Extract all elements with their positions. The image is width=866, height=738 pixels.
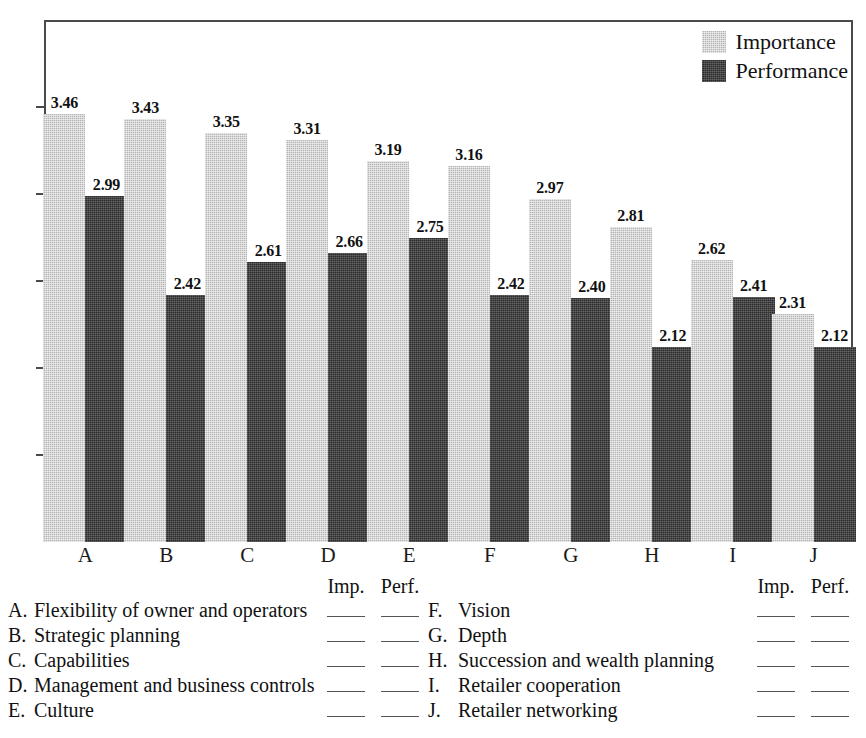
key-letter: H. (428, 650, 458, 670)
key-text: Flexibility of owner and operators (34, 600, 320, 620)
bar-group-j: 2.312.12 (772, 20, 856, 542)
bar-g-perf: 2.40 (571, 298, 613, 542)
key-letter: D. (8, 675, 34, 695)
bar-value-label: 3.31 (294, 121, 321, 137)
x-axis: ABCDEFGHIJ (44, 545, 853, 579)
key-blank-performance (802, 641, 858, 644)
key-blank-performance (802, 616, 858, 619)
key-blank-performance (372, 716, 428, 719)
key-row: J. Retailer networking (428, 700, 858, 725)
key-header-importance: Imp. (750, 576, 802, 596)
key-text: Retailer cooperation (458, 675, 750, 695)
bar-value-label: 2.61 (255, 243, 282, 259)
key-header-importance: Imp. (320, 576, 372, 596)
bar-value-label: 3.19 (374, 142, 401, 158)
bar-value-label: 3.43 (132, 100, 159, 116)
key-letter: B. (8, 625, 34, 645)
bar-f-perf: 2.42 (490, 295, 532, 542)
x-tick-label-f: F (484, 545, 496, 566)
bar-group-a: 3.462.99 (43, 20, 127, 542)
bar-group-h: 2.812.12 (610, 20, 694, 542)
bar-value-label: 3.46 (51, 95, 78, 111)
bar-value-label: 2.66 (336, 234, 363, 250)
key-blank-performance (802, 691, 858, 694)
bar-value-label: 2.75 (416, 219, 443, 235)
bar-e-perf: 2.75 (409, 238, 451, 543)
key-text: Culture (34, 700, 320, 720)
x-tick-label-d: D (321, 545, 336, 566)
legend-item-importance: Importance (702, 30, 848, 53)
bar-value-label: 3.16 (455, 147, 482, 163)
key-column-left: Imp. Perf. A. Flexibility of owner and o… (8, 576, 428, 725)
key-row: E. Culture (8, 700, 428, 725)
bar-c-perf: 2.61 (247, 262, 289, 542)
bar-g-imp: 2.97 (529, 199, 571, 542)
key-row: F. Vision (428, 600, 858, 625)
key-blank-importance (320, 641, 372, 644)
key-blank-performance (372, 691, 428, 694)
x-tick-label-g: G (563, 545, 578, 566)
key-row: B. Strategic planning (8, 625, 428, 650)
bar-value-label: 2.62 (698, 241, 725, 257)
bar-value-label: 2.40 (578, 279, 605, 295)
key-text: Management and business controls (34, 675, 320, 695)
bar-group-d: 3.312.66 (286, 20, 370, 542)
key-letter: J. (428, 700, 458, 720)
key-row: A. Flexibility of owner and operators (8, 600, 428, 625)
key-text: Capabilities (34, 650, 320, 670)
performance-swatch-icon (702, 60, 726, 82)
bar-value-label: 2.42 (497, 276, 524, 292)
legend-item-performance: Performance (702, 59, 848, 82)
bar-j-imp: 2.31 (772, 314, 814, 542)
bar-d-perf: 2.66 (328, 253, 370, 542)
bar-j-perf: 2.12 (814, 347, 856, 542)
bar-value-label: 2.42 (174, 276, 201, 292)
key-blank-performance (372, 616, 428, 619)
bar-d-imp: 3.31 (286, 140, 328, 542)
key-blank-performance (372, 666, 428, 669)
bar-h-perf: 2.12 (652, 347, 694, 542)
x-tick-label-i: I (729, 545, 736, 566)
bar-value-label: 2.97 (536, 180, 563, 196)
key-letter: E. (8, 700, 34, 720)
bar-group-e: 3.192.75 (367, 20, 451, 542)
key-letter: G. (428, 625, 458, 645)
bar-a-perf: 2.99 (85, 196, 127, 542)
key-blank-importance (320, 691, 372, 694)
x-tick-label-j: J (809, 545, 817, 566)
key-header-left: Imp. Perf. (8, 576, 428, 600)
bars-layer: 3.462.993.432.423.352.613.312.663.192.75… (44, 20, 853, 542)
bar-f-imp: 3.16 (448, 166, 490, 542)
key-blank-importance (320, 616, 372, 619)
bar-h-imp: 2.81 (610, 227, 652, 542)
bar-value-label: 2.12 (659, 328, 686, 344)
x-tick-label-b: B (159, 545, 173, 566)
x-tick-label-h: H (644, 545, 659, 566)
bar-i-perf: 2.41 (733, 297, 775, 542)
bar-value-label: 2.31 (779, 295, 806, 311)
bar-a-imp: 3.46 (43, 114, 85, 542)
legend-label-performance: Performance (736, 59, 848, 82)
key-row: D. Management and business controls (8, 675, 428, 700)
key-row: C. Capabilities (8, 650, 428, 675)
key-text: Succession and wealth planning (458, 650, 750, 670)
bar-c-imp: 3.35 (205, 133, 247, 542)
key-blank-performance (802, 716, 858, 719)
key-blank-importance (750, 716, 802, 719)
key-column-right: Imp. Perf. F. Vision G. Depth H. Success… (428, 576, 858, 725)
bar-group-g: 2.972.40 (529, 20, 613, 542)
bar-value-label: 2.99 (93, 177, 120, 193)
key-blank-performance (802, 666, 858, 669)
key-row: H. Succession and wealth planning (428, 650, 858, 675)
key-letter: C. (8, 650, 34, 670)
y-axis: 11.522.533.54 (0, 0, 44, 562)
bar-i-imp: 2.62 (691, 260, 733, 542)
bar-value-label: 3.35 (213, 114, 240, 130)
key-blank-importance (750, 616, 802, 619)
key-header-performance: Perf. (802, 576, 858, 596)
key-blank-importance (750, 641, 802, 644)
x-tick-label-a: A (78, 545, 93, 566)
category-key: Imp. Perf. A. Flexibility of owner and o… (0, 576, 866, 738)
bar-b-imp: 3.43 (124, 119, 166, 542)
key-text: Strategic planning (34, 625, 320, 645)
